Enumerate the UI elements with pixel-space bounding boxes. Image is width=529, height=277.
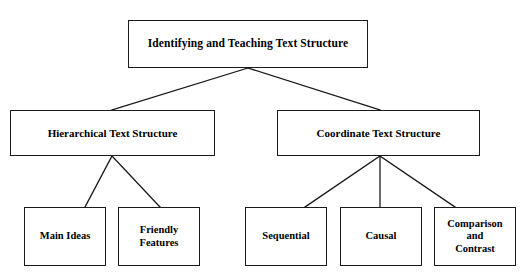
node-root-label: Identifying and Teaching Text Structure — [144, 37, 353, 51]
connector-coordinate-to-sequential — [305, 156, 380, 207]
node-comparison-and-contrast: Comparison and Contrast — [434, 207, 516, 266]
connector-coordinate-to-comparison — [380, 156, 455, 207]
node-friendly-features-label: Friendly Features — [136, 224, 183, 249]
node-coordinate-text-structure: Coordinate Text Structure — [277, 110, 480, 156]
node-comparison-and-contrast-label: Comparison and Contrast — [443, 218, 506, 255]
node-root: Identifying and Teaching Text Structure — [128, 20, 368, 68]
connector-hierarchical-to-friendly — [112, 156, 160, 207]
node-coordinate-label: Coordinate Text Structure — [313, 127, 445, 140]
node-sequential-label: Sequential — [258, 230, 313, 242]
node-friendly-features: Friendly Features — [118, 207, 200, 266]
connector-root-to-hierarchical — [112, 68, 248, 110]
node-hierarchical-label: Hierarchical Text Structure — [44, 127, 182, 140]
connector-hierarchical-to-main-ideas — [85, 156, 112, 207]
node-hierarchical-text-structure: Hierarchical Text Structure — [10, 110, 215, 156]
node-main-ideas: Main Ideas — [24, 207, 106, 266]
node-causal: Causal — [340, 207, 422, 266]
node-causal-label: Causal — [362, 230, 401, 242]
node-sequential: Sequential — [245, 207, 327, 266]
node-main-ideas-label: Main Ideas — [36, 230, 94, 242]
text-structure-diagram: Identifying and Teaching Text Structure … — [0, 0, 529, 277]
connector-root-to-coordinate — [248, 68, 380, 110]
